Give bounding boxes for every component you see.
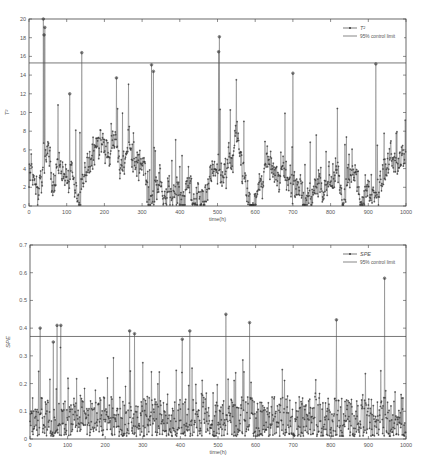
legend: SPE95% control limit: [340, 248, 404, 268]
x-tick-label: 200: [101, 442, 110, 448]
y-tick-label: 0.3: [19, 353, 27, 359]
y-tick-label: 0.5: [19, 297, 27, 303]
x-tick-label: 700: [288, 209, 297, 215]
chart-SPE: 0100200300400500600700800900100000.10.20…: [5, 242, 412, 455]
x-tick-label: 100: [62, 209, 71, 215]
series-line: [30, 278, 406, 436]
y-tick-label: 0.2: [19, 381, 27, 387]
y-tick-label: 0.7: [19, 242, 27, 248]
y-tick-label: 14: [20, 72, 26, 78]
x-tick-label: 400: [176, 442, 185, 448]
y-tick-label: 0: [23, 203, 26, 209]
y-tick-label: 0: [24, 436, 27, 442]
y-axis-label: SPE: [5, 335, 11, 348]
x-axis-label: time(h): [209, 449, 226, 455]
y-tick-label: 0.1: [19, 408, 27, 414]
x-tick-label: 1000: [400, 442, 412, 448]
x-tick-label: 500: [213, 209, 222, 215]
legend-limit-label: 95% control limit: [360, 260, 396, 265]
x-tick-label: 200: [100, 209, 109, 215]
x-tick-label: 500: [213, 442, 222, 448]
y-tick-label: 0.4: [19, 325, 27, 331]
x-tick-label: 1000: [400, 209, 412, 215]
x-tick-label: 0: [27, 209, 30, 215]
chart-T2: 0100200300400500600700800900100002468101…: [4, 16, 412, 222]
legend-limit-label: 95% control limit: [360, 34, 396, 39]
legend-series-label: SPE: [360, 251, 371, 257]
series-line: [29, 19, 406, 205]
x-tick-label: 700: [289, 442, 298, 448]
x-tick-label: 600: [251, 209, 260, 215]
figure: 0100200300400500600700800900100002468101…: [0, 0, 430, 474]
y-tick-label: 4: [23, 166, 26, 172]
x-tick-label: 0: [28, 442, 31, 448]
x-tick-label: 300: [138, 209, 147, 215]
y-axis-label: T²: [4, 109, 10, 116]
y-tick-label: 12: [20, 91, 26, 97]
x-tick-label: 400: [175, 209, 184, 215]
x-tick-label: 900: [364, 209, 373, 215]
x-tick-label: 900: [364, 442, 373, 448]
y-tick-label: 18: [20, 35, 26, 41]
legend: T²95% control limit: [340, 22, 404, 42]
y-tick-label: 10: [20, 110, 26, 116]
legend-series-label: T²: [360, 25, 365, 31]
y-tick-label: 6: [23, 147, 26, 153]
x-tick-label: 600: [251, 442, 260, 448]
chart-canvas: 0100200300400500600700800900100002468101…: [0, 0, 430, 474]
y-tick-label: 0.6: [19, 270, 27, 276]
y-tick-label: 2: [23, 184, 26, 190]
x-axis-label: time(h): [209, 216, 226, 222]
x-tick-label: 300: [138, 442, 147, 448]
y-tick-label: 16: [20, 53, 26, 59]
x-tick-label: 100: [63, 442, 72, 448]
y-tick-label: 8: [23, 128, 26, 134]
x-tick-label: 800: [326, 442, 335, 448]
y-tick-label: 20: [20, 16, 26, 22]
x-tick-label: 800: [326, 209, 335, 215]
